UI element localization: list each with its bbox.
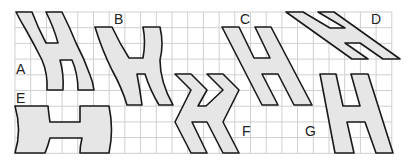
shape-d — [286, 12, 400, 59]
label-d: D — [371, 12, 381, 26]
shape-b — [95, 27, 173, 105]
label-f: F — [242, 124, 251, 138]
shape-g — [320, 74, 393, 153]
label-a: A — [16, 62, 25, 76]
shape-f — [175, 74, 239, 153]
label-e: E — [16, 91, 25, 105]
label-g: G — [305, 124, 316, 138]
label-c: C — [240, 12, 250, 26]
shape-e — [15, 106, 112, 153]
shape-a — [16, 12, 94, 90]
shapes-diagram — [0, 0, 409, 161]
label-b: B — [114, 12, 123, 26]
